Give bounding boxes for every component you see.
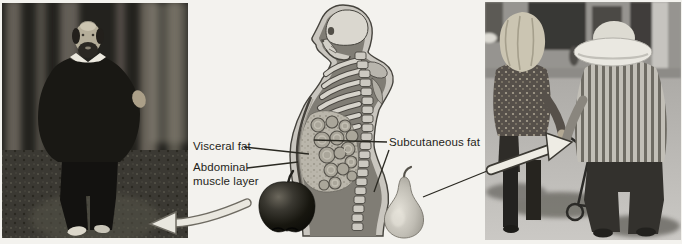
label-abdominal-muscle-layer: Abdominal muscle layer bbox=[193, 161, 269, 188]
left-photo-apple-shape bbox=[2, 0, 188, 244]
figure-artwork bbox=[0, 0, 682, 244]
label-visceral-fat: Visceral fat bbox=[193, 140, 251, 154]
sun-hat-brim bbox=[574, 38, 652, 66]
pear-icon bbox=[384, 167, 423, 238]
beard bbox=[78, 42, 98, 58]
blonde-hair bbox=[500, 12, 545, 72]
striped-top bbox=[575, 59, 667, 162]
fat-distribution-figure: Visceral fat Abdominal muscle layer Subc… bbox=[0, 0, 682, 244]
right-photo-pear-shape bbox=[481, 2, 681, 242]
label-subcutaneous-fat: Subcutaneous fat bbox=[389, 136, 480, 150]
visceral-fat bbox=[299, 111, 358, 192]
dark-sweater bbox=[38, 58, 140, 162]
